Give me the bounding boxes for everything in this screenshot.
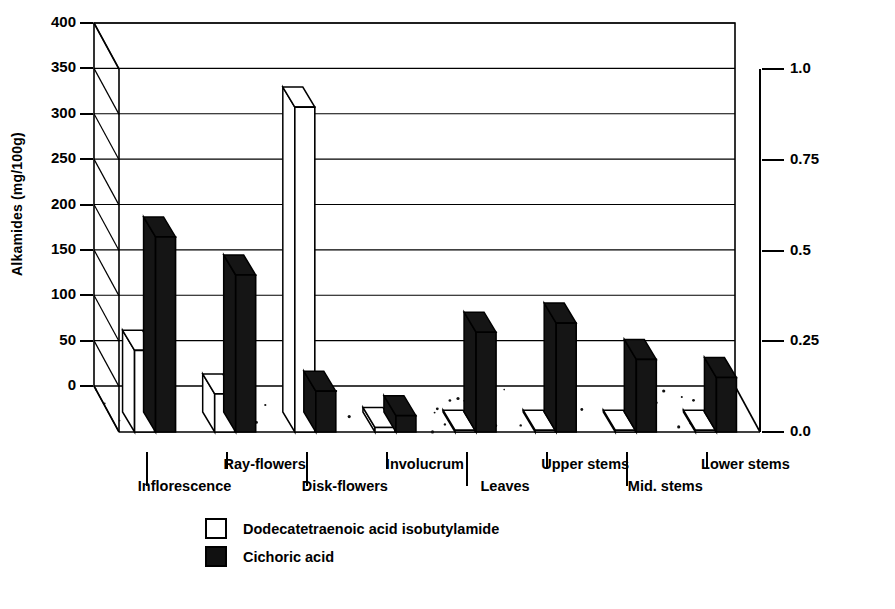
- y-tick-mark-left: [80, 340, 93, 342]
- chart-legend: Dodecatetraenoic acid isobutylamide Cich…: [205, 518, 499, 574]
- y-tick-right-0_5: 0.5: [790, 241, 811, 258]
- y-tick-mark-right: [762, 250, 784, 252]
- y-tick-right-0: 0.0: [790, 422, 811, 439]
- y-tick-right-0_25: 0.25: [790, 331, 819, 348]
- y-tick-left-350: 350: [18, 58, 76, 75]
- y-tick-mark-left: [80, 249, 93, 251]
- y-tick-mark-left: [80, 294, 93, 296]
- y-tick-left-50: 50: [18, 331, 76, 348]
- y-tick-mark-right: [762, 340, 784, 342]
- chart-figure: Alkamides (mg/100g) Cichoric acid (g/100…: [0, 0, 895, 609]
- legend-label-cichoric: Cichoric acid: [243, 549, 334, 565]
- y-tick-left-250: 250: [18, 149, 76, 166]
- y-tick-mark-right: [762, 431, 784, 433]
- x-label-upper-stems: Upper stems: [500, 456, 670, 472]
- y-tick-left-0: 0: [18, 376, 76, 393]
- y-tick-right-1: 1.0: [790, 59, 811, 76]
- y-tick-mark-left: [80, 204, 93, 206]
- legend-swatch-cichoric: [205, 546, 227, 567]
- y-tick-mark-right: [762, 159, 784, 161]
- x-label-inflorescence: Inflorescence: [100, 478, 270, 494]
- legend-swatch-dodecatetraenoic: [205, 518, 227, 539]
- legend-item: Cichoric acid: [205, 546, 499, 567]
- y-tick-mark-left: [80, 22, 93, 24]
- y-tick-mark-left: [80, 67, 93, 69]
- x-label-mid-stems: Mid. stems: [580, 478, 750, 494]
- y-tick-left-400: 400: [18, 13, 76, 30]
- x-label-ray-flowers: Ray-flowers: [180, 456, 350, 472]
- y-tick-mark-right: [762, 68, 784, 70]
- x-label-disk-flowers: Disk-flowers: [260, 478, 430, 494]
- y-tick-left-200: 200: [18, 195, 76, 212]
- x-label-lower-stems: Lower stems: [660, 456, 830, 472]
- y-tick-right-0_75: 0.75: [790, 150, 819, 167]
- y-tick-mark-left: [80, 113, 93, 115]
- x-label-involucrum: Involucrum: [340, 456, 510, 472]
- legend-label-dodecatetraenoic: Dodecatetraenoic acid isobutylamide: [243, 521, 499, 537]
- legend-item: Dodecatetraenoic acid isobutylamide: [205, 518, 499, 539]
- x-label-leaves: Leaves: [420, 478, 590, 494]
- y-tick-mark-left: [80, 385, 93, 387]
- y-tick-left-100: 100: [18, 285, 76, 302]
- y-tick-left-300: 300: [18, 104, 76, 121]
- y-tick-left-150: 150: [18, 240, 76, 257]
- y-tick-mark-left: [80, 158, 93, 160]
